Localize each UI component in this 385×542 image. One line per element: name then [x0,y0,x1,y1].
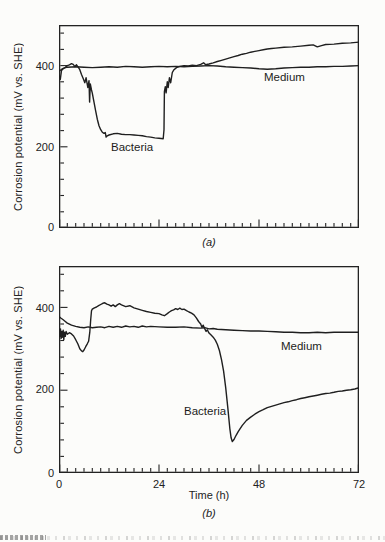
bacteria-curve-label-b: Bacteria [184,405,226,417]
x-axis-title: Time (h) [59,489,359,501]
panel-tag-a: (a) [59,236,359,248]
y-axis-title-a: Corrosion potential (mV vs. SHE) [12,25,28,228]
y-tick-label-a-400: 400 [28,60,54,72]
plot-area-b [59,266,359,473]
bacteria-curve-label-a: Bacteria [111,141,153,153]
y-tick-label-b-400: 400 [28,302,54,314]
y-tick-label-a-0: 0 [28,221,54,233]
panel-tag-b: (b) [59,507,359,519]
plot-area-a [59,25,359,228]
medium-curve-label-b: Medium [281,340,322,352]
y-tick-label-a-200: 200 [28,141,54,153]
figure-page: Corrosion potential (mV vs. SHE) 400 200… [0,0,385,542]
y-axis-title-b: Corrosion potential (mV vs. SHE) [12,266,28,473]
y-tick-label-b-200: 200 [28,383,54,395]
cropped-caption-strip [0,536,385,540]
medium-curve-label-a: Medium [264,71,305,83]
